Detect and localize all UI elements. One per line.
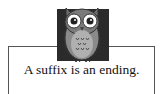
owl-icon (56, 2, 108, 64)
caption-text: A suffix is an ending. (0, 62, 163, 78)
